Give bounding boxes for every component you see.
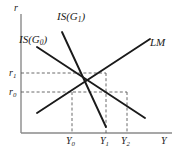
x-axis-label: Y bbox=[161, 136, 167, 146]
figure-canvas bbox=[0, 0, 177, 156]
x-tick-label-Y0: Y0 bbox=[66, 136, 75, 148]
x-tick-label-Y2: Y2 bbox=[121, 136, 130, 148]
curve-label-is-g1: IS(G1) bbox=[57, 11, 85, 24]
Y0-subscript: 0 bbox=[72, 140, 75, 147]
r1-subscript: 1 bbox=[13, 72, 16, 79]
is-g1-text: IS bbox=[57, 10, 66, 22]
is-g1-paren-close: ) bbox=[82, 10, 86, 22]
curve-is-g1 bbox=[62, 32, 106, 127]
is-g0-var: G bbox=[32, 33, 40, 45]
is-lm-figure: r Y IS(G0) IS(G1) LM r1 r0 Y0 Y1 Y2 bbox=[0, 0, 177, 156]
y-tick-label-r1: r1 bbox=[9, 68, 16, 80]
Y2-subscript: 2 bbox=[127, 140, 130, 147]
is-g0-paren-close: ) bbox=[44, 33, 48, 45]
curve-label-is-g0: IS(G0) bbox=[19, 34, 47, 47]
is-g0-text: IS bbox=[19, 33, 28, 45]
y-axis-label: r bbox=[14, 3, 18, 13]
y-tick-label-r0: r0 bbox=[9, 87, 16, 99]
is-g1-var: G bbox=[70, 10, 78, 22]
x-tick-label-Y1: Y1 bbox=[100, 136, 109, 148]
r0-subscript: 0 bbox=[13, 91, 16, 98]
curve-label-lm: LM bbox=[150, 37, 165, 48]
Y1-subscript: 1 bbox=[106, 140, 109, 147]
curve-is-g0 bbox=[37, 47, 145, 118]
